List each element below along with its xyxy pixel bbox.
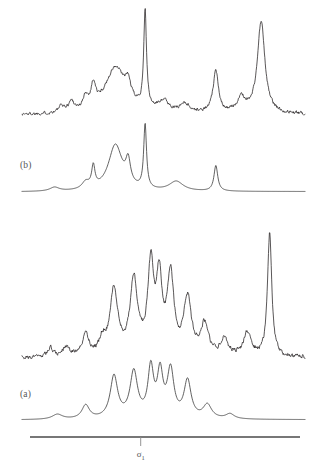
panel-label-a: (a) bbox=[20, 389, 31, 399]
panel-label-b: (b) bbox=[20, 160, 32, 170]
spectra-figure: (b) (a) σ1 bbox=[0, 0, 320, 476]
trace-panel-a-simulated bbox=[22, 360, 305, 419]
x-axis-label-subscript: 1 bbox=[142, 454, 145, 461]
spectra-plot-area bbox=[0, 0, 320, 476]
x-axis-label: σ1 bbox=[0, 449, 320, 461]
trace-panel-a-experimental bbox=[22, 233, 305, 359]
trace-panel-b-experimental bbox=[22, 9, 305, 116]
trace-panel-b-simulated bbox=[22, 123, 305, 191]
